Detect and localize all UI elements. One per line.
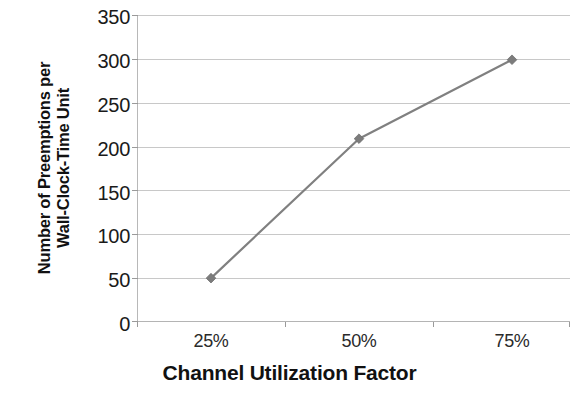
y-tick-label-250: 250	[82, 95, 130, 115]
y-axis-title: Number of Preemptions per Wall-Clock-Tim…	[26, 18, 82, 318]
x-tick-label-50pct: 50%	[314, 331, 404, 352]
line-chart-figure: Number of Preemptions per Wall-Clock-Tim…	[0, 0, 579, 397]
plot-area	[137, 15, 570, 322]
x-tickmark-left	[137, 322, 138, 327]
y-tick-label-300: 300	[82, 51, 130, 71]
y-axis-title-line-2: Wall-Clock-Time Unit	[54, 88, 73, 248]
y-axis-title-stack: Number of Preemptions per Wall-Clock-Tim…	[35, 62, 73, 274]
x-axis-title: Channel Utilization Factor	[0, 361, 579, 385]
data-series-svg	[137, 15, 570, 322]
y-tick-label-100: 100	[82, 226, 130, 246]
y-tick-label-350: 350	[82, 7, 130, 27]
data-point-marker-75pct	[507, 55, 517, 65]
x-tick-label-75pct: 75%	[467, 331, 557, 352]
series-line-preemptions	[211, 60, 512, 278]
x-tickmark-mid-1	[285, 322, 286, 327]
y-tick-label-50: 50	[82, 270, 130, 290]
y-tick-label-200: 200	[82, 139, 130, 159]
x-tickmark-right	[569, 322, 570, 327]
series-markers	[206, 55, 517, 283]
x-tick-label-25pct: 25%	[166, 331, 256, 352]
y-tick-label-150: 150	[82, 183, 130, 203]
y-axis-title-line-1: Number of Preemptions per	[35, 62, 54, 274]
x-tickmark-mid-2	[433, 322, 434, 327]
x-axis-tick-labels: 25% 50% 75%	[0, 331, 579, 357]
